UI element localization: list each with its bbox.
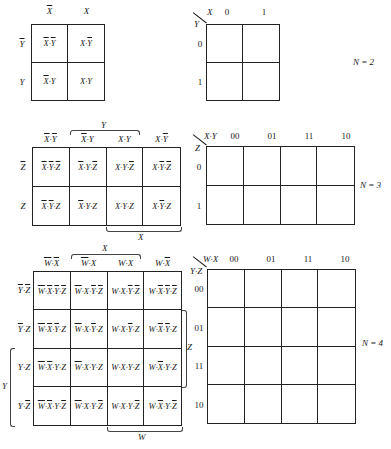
map-cell[interactable] [318, 385, 355, 423]
n2-empty-map [206, 24, 280, 101]
map-cell[interactable]: W·X·Y·Z [108, 272, 145, 310]
cell-term: X·Y [80, 76, 92, 86]
cell-term: X·Y·Z [115, 162, 134, 172]
map-cell[interactable] [282, 347, 319, 385]
map-cell[interactable] [243, 25, 279, 63]
row-header: Y [16, 77, 28, 87]
map-cell[interactable]: W·X·Y·Z [108, 310, 145, 348]
n4-symbolic-map: W·X·Y·ZW·X·Y·ZW·X·Y·ZW·X·Y·ZW·X·Y·ZW·X·Y… [33, 271, 182, 426]
cell-term: W·X·Y·Z [38, 401, 66, 411]
map-cell[interactable] [282, 385, 319, 423]
n2-symbolic-map: X·YX·YX·YX·Y [31, 24, 105, 101]
map-cell[interactable]: W·X·Y·Z [144, 310, 181, 348]
cell-term: X·Y [43, 76, 55, 86]
map-cell[interactable]: W·X·Y·Z [108, 387, 145, 425]
map-cell[interactable] [281, 147, 318, 186]
col-code: 11 [298, 254, 318, 264]
map-cell[interactable]: W·X·Y·Z [71, 310, 108, 348]
map-cell[interactable] [243, 63, 279, 101]
map-cell[interactable] [208, 385, 245, 423]
n2-col-var-label: X [207, 7, 213, 17]
cell-term: W·X·Y·Z [38, 286, 66, 296]
map-cell[interactable]: W·X·Y·Z [144, 349, 181, 387]
map-cell[interactable] [245, 385, 282, 423]
map-cell[interactable] [318, 347, 355, 385]
map-cell[interactable]: X·Y [32, 25, 68, 63]
cell-term: X·Y [80, 38, 92, 48]
cell-term: X·Y·Z [78, 201, 97, 211]
n3-symbolic-map: X·Y·ZX·Y·ZX·Y·ZX·Y·ZX·Y·ZX·Y·ZX·Y·ZX·Y·Z [32, 147, 181, 226]
map-cell[interactable]: X·Y·Z [33, 148, 70, 187]
map-cell[interactable]: W·X·Y·Z [144, 387, 181, 425]
map-cell[interactable]: W·X·Y·Z [34, 310, 71, 348]
map-cell[interactable]: W·X·Y·Z [34, 272, 71, 310]
map-cell[interactable]: X·Y·Z [107, 148, 144, 187]
cell-term: X·Y·Z [41, 201, 60, 211]
cell-term: W·X·Y·Z [75, 362, 103, 372]
col-code: 0 [221, 7, 233, 17]
map-cell[interactable] [281, 186, 318, 225]
n3-bottom-brace [106, 227, 182, 232]
map-cell[interactable]: W·X·Y·Z [71, 272, 108, 310]
map-cell[interactable] [244, 186, 281, 225]
col-code: 10 [335, 254, 355, 264]
map-cell[interactable]: X·Y·Z [70, 187, 107, 226]
map-cell[interactable] [208, 347, 245, 385]
map-cell[interactable] [244, 147, 281, 186]
map-cell[interactable] [317, 186, 354, 225]
row-header: Y·Z [13, 324, 35, 334]
map-cell[interactable]: W·X·Y·Z [34, 349, 71, 387]
map-cell[interactable]: X·Y [32, 63, 68, 101]
map-cell[interactable]: W·X·Y·Z [71, 349, 108, 387]
row-header: Z [18, 162, 28, 172]
row-header: Y·Z [13, 401, 35, 411]
n4-row-var-label: Y·Z [190, 266, 202, 276]
cell-term: X·Y·Z [78, 162, 97, 172]
cell-term: W·X·Y·Z [38, 324, 66, 334]
cell-term: W·X·Y·Z [75, 286, 103, 296]
map-cell[interactable]: X·Y·Z [33, 187, 70, 226]
map-cell[interactable]: X·Y·Z [107, 187, 144, 226]
row-code: 1 [195, 201, 203, 211]
map-cell[interactable] [318, 270, 355, 308]
map-cell[interactable]: W·X·Y·Z [144, 272, 181, 310]
map-cell[interactable] [207, 25, 243, 63]
map-cell[interactable] [282, 270, 319, 308]
map-cell[interactable] [207, 63, 243, 101]
map-cell[interactable] [245, 308, 282, 346]
col-code: 01 [262, 131, 282, 141]
map-cell[interactable]: W·X·Y·Z [71, 387, 108, 425]
map-cell[interactable] [208, 270, 245, 308]
map-cell[interactable] [318, 308, 355, 346]
col-code: 10 [336, 131, 356, 141]
col-header: W·X [33, 258, 70, 268]
n3-top-brace-label: Y [101, 120, 106, 130]
map-cell[interactable]: X·Y·Z [143, 187, 180, 226]
map-cell[interactable] [282, 308, 319, 346]
cell-term: X·Y·Z [152, 162, 171, 172]
cell-term: W·X·Y·Z [149, 324, 177, 334]
n4-right-brace-label: Z [187, 342, 192, 352]
map-cell[interactable]: X·Y [68, 25, 104, 63]
row-code: 11 [192, 361, 206, 371]
map-cell[interactable] [208, 308, 245, 346]
map-cell[interactable]: X·Y·Z [70, 148, 107, 187]
row-header: Y [16, 39, 28, 49]
n4-left-brace-label: Y [2, 381, 7, 391]
map-cell[interactable]: W·X·Y·Z [108, 349, 145, 387]
n4-size-label: N = 4 [362, 338, 383, 348]
col-code: 1 [258, 7, 270, 17]
map-cell[interactable]: X·Y [68, 63, 104, 101]
map-cell[interactable]: X·Y·Z [143, 148, 180, 187]
col-header: X·Y [32, 134, 69, 144]
row-code: 1 [196, 77, 204, 87]
map-cell[interactable] [207, 147, 244, 186]
map-cell[interactable] [317, 147, 354, 186]
cell-term: W·X·Y·Z [111, 286, 139, 296]
cell-term: W·X·Y·Z [149, 401, 177, 411]
map-cell[interactable]: W·X·Y·Z [34, 387, 71, 425]
col-header: X [31, 6, 68, 16]
map-cell[interactable] [245, 270, 282, 308]
map-cell[interactable] [207, 186, 244, 225]
map-cell[interactable] [245, 347, 282, 385]
